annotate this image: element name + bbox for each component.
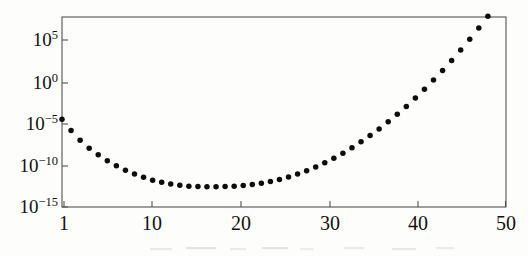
data-point [376, 126, 382, 132]
plot-frame [62, 17, 506, 207]
data-point [195, 184, 201, 190]
data-point [404, 104, 410, 110]
data-point [186, 183, 192, 189]
data-point [304, 168, 310, 174]
y-axis-tick-label: 10−10 [19, 156, 58, 175]
data-point [86, 145, 92, 151]
x-axis-tick-label: 50 [483, 213, 528, 233]
data-point [95, 152, 101, 158]
data-point [231, 183, 237, 189]
data-point [340, 150, 346, 156]
data-point [413, 95, 419, 101]
data-point [132, 171, 138, 177]
y-tick-mantissa: 10 [33, 72, 52, 93]
data-point [114, 163, 120, 169]
x-axis-tick-label: 40 [395, 213, 441, 233]
data-point [467, 36, 473, 42]
data-point [440, 68, 446, 74]
y-axis-ticks [62, 40, 68, 207]
data-point [485, 13, 491, 19]
data-point [259, 180, 265, 186]
data-point [77, 137, 83, 143]
data-point [385, 119, 391, 125]
data-point [159, 180, 165, 186]
data-point [367, 133, 373, 139]
data-point [458, 47, 464, 53]
y-tick-exponent: 5 [52, 28, 58, 42]
y-axis-tick-label: 100 [33, 73, 58, 92]
y-tick-mantissa: 10 [19, 155, 38, 176]
data-point [150, 178, 156, 184]
data-point-series [59, 13, 490, 189]
data-point [213, 184, 219, 190]
y-tick-mantissa: 10 [33, 29, 52, 50]
data-point [349, 145, 355, 151]
data-point [123, 168, 128, 174]
data-point [277, 177, 283, 183]
y-tick-mantissa: 10 [19, 196, 38, 217]
y-axis-tick-label: 10−5 [26, 114, 58, 133]
data-point [68, 128, 74, 134]
data-point [422, 87, 428, 93]
y-tick-exponent: −5 [45, 112, 58, 126]
data-point [168, 181, 174, 187]
y-tick-exponent: −10 [38, 154, 58, 168]
x-axis-tick-label: 1 [41, 213, 87, 233]
data-point [204, 184, 210, 190]
data-point [177, 183, 183, 189]
data-point [449, 58, 455, 64]
x-axis-tick-label: 30 [307, 213, 353, 233]
data-point [322, 160, 328, 166]
data-point [222, 184, 228, 190]
y-tick-exponent: 0 [52, 71, 58, 85]
data-point [395, 112, 401, 118]
data-point [358, 139, 364, 145]
figure-container: 10510010−510−1010−15 11020304050 [0, 0, 528, 256]
x-axis-ticks [64, 201, 506, 207]
data-point [295, 171, 301, 177]
y-tick-exponent: −15 [38, 195, 58, 209]
y-axis-tick-label: 105 [33, 30, 58, 49]
y-tick-mantissa: 10 [26, 113, 45, 134]
x-axis-tick-label: 10 [129, 213, 175, 233]
data-point [141, 175, 147, 181]
data-point [431, 77, 437, 83]
data-point [286, 174, 292, 180]
data-point [331, 155, 337, 161]
data-point [476, 25, 482, 31]
data-point [105, 158, 111, 164]
data-point [250, 182, 256, 188]
data-point [59, 117, 65, 123]
x-axis-tick-label: 20 [218, 213, 264, 233]
data-point [240, 183, 246, 189]
data-point [268, 179, 274, 185]
data-point [313, 164, 319, 170]
scan-artifacts [150, 247, 454, 250]
